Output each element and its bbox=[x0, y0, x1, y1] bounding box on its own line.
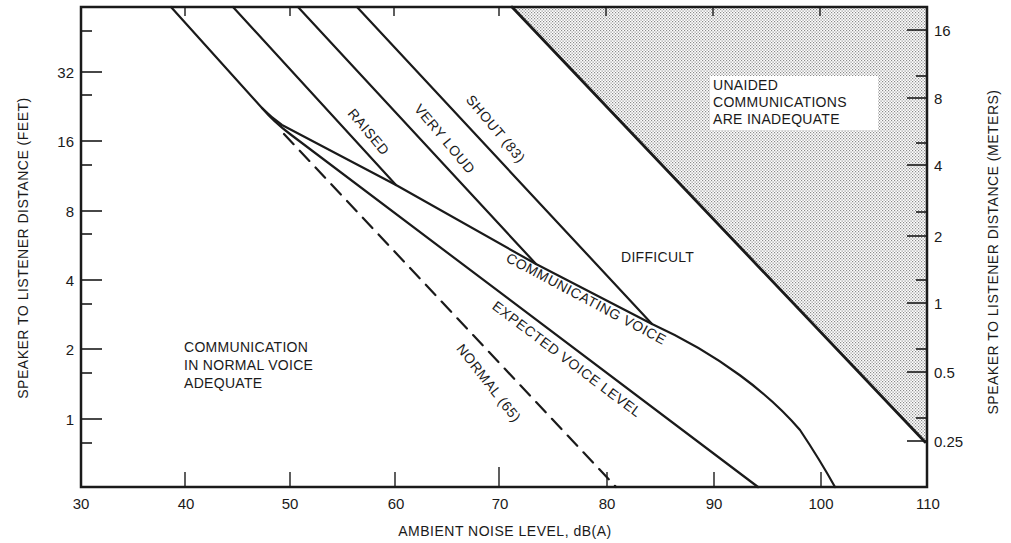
y-axis-left-title: SPEAKER TO LISTENER DISTANCE (FEET) bbox=[15, 97, 31, 398]
y-axis-right-title: SPEAKER TO LISTENER DISTANCE (METERS) bbox=[985, 89, 1001, 414]
region-normal-line1: COMMUNICATION bbox=[184, 339, 308, 355]
y-left-tick-1: 1 bbox=[66, 411, 74, 428]
y-right-tick-16: 16 bbox=[934, 22, 951, 39]
region-difficult-label: DIFFICULT bbox=[621, 249, 694, 265]
y-right-tick-2: 2 bbox=[934, 228, 942, 245]
y-right-tick-1: 1 bbox=[934, 295, 942, 312]
x-tick-40: 40 bbox=[178, 495, 195, 512]
x-tick-80: 80 bbox=[599, 495, 616, 512]
x-tick-60: 60 bbox=[388, 495, 405, 512]
region-normal-label: COMMUNICATION IN NORMAL VOICE ADEQUATE bbox=[184, 339, 313, 391]
region-inadequate-line1: UNAIDED bbox=[713, 77, 778, 93]
x-tick-100: 100 bbox=[808, 495, 833, 512]
y-right-tick-0-25: 0.25 bbox=[934, 433, 963, 450]
y-left-tick-4: 4 bbox=[66, 272, 74, 289]
curve-raised bbox=[233, 7, 396, 185]
left-axis-ticks bbox=[81, 31, 102, 443]
x-tick-30: 30 bbox=[73, 495, 90, 512]
region-inadequate-line3: ARE INADEQUATE bbox=[713, 111, 840, 127]
y-left-tick-32: 32 bbox=[57, 64, 74, 81]
x-tick-labels: 30 40 50 60 70 80 90 100 110 bbox=[73, 495, 940, 512]
x-tick-110: 110 bbox=[916, 495, 940, 512]
x-tick-50: 50 bbox=[282, 495, 299, 512]
y-right-tick-4: 4 bbox=[934, 157, 942, 174]
speech-interference-chart: 30 40 50 60 70 80 90 100 110 32 16 8 4 2… bbox=[0, 0, 1011, 543]
region-inadequate-line2: COMMUNICATIONS bbox=[713, 94, 847, 110]
x-tick-90: 90 bbox=[706, 495, 723, 512]
y-left-tick-2: 2 bbox=[66, 341, 74, 358]
curve-normal bbox=[284, 134, 616, 487]
region-normal-line2: IN NORMAL VOICE bbox=[184, 357, 313, 373]
x-axis-title: AMBIENT NOISE LEVEL, dB(A) bbox=[398, 523, 611, 539]
y-right-tick-0-5: 0.5 bbox=[934, 364, 955, 381]
y-right-tick-labels: 16 8 4 2 1 0.5 0.25 bbox=[934, 22, 963, 450]
label-raised: RAISED bbox=[345, 105, 393, 158]
y-left-tick-8: 8 bbox=[66, 203, 74, 220]
x-tick-70: 70 bbox=[492, 495, 509, 512]
y-left-tick-labels: 32 16 8 4 2 1 bbox=[57, 64, 74, 428]
y-left-tick-16: 16 bbox=[57, 133, 74, 150]
y-right-tick-8: 8 bbox=[934, 90, 942, 107]
region-normal-line3: ADEQUATE bbox=[184, 375, 262, 391]
